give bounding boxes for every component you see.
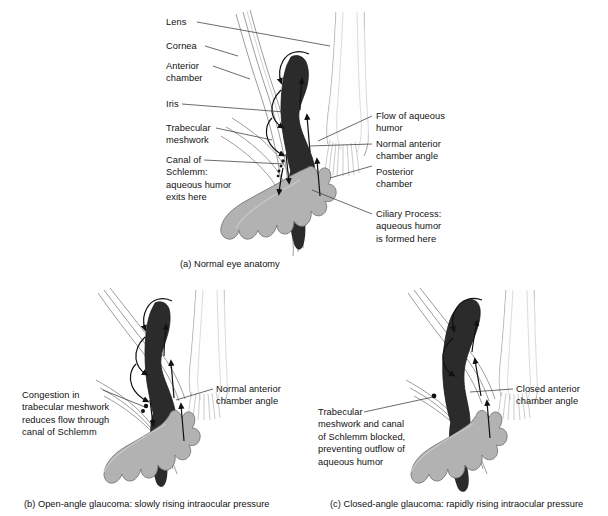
label-normal-anterior-chamber-angle-a: Normal anterior chamber angle	[376, 138, 441, 163]
label-flow-of-aqueous-humor: Flow of aqueous humor	[376, 110, 445, 135]
label-trabecular-meshwork-blocked: Trabecular meshwork and canal of Schlemm…	[318, 406, 405, 468]
label-posterior-chamber: Posterior chamber	[376, 166, 414, 191]
caption-panel-b: (b) Open-angle glaucoma: slowly rising i…	[24, 498, 269, 510]
cornea-layers-b	[98, 288, 185, 404]
figure-root: Lens Cornea Anterior chamber Iris Trabec…	[0, 0, 608, 516]
label-lens: Lens	[166, 16, 186, 28]
label-trabecular-meshwork: Trabecular meshwork	[166, 122, 211, 147]
label-cornea: Cornea	[166, 40, 197, 52]
lens-body-fill-a	[327, 12, 369, 158]
label-closed-anterior-chamber-angle: Closed anterior chamber angle	[516, 383, 580, 408]
label-congestion-trabecular-meshwork: Congestion in trabecular meshwork reduce…	[22, 389, 109, 439]
label-ciliary-process: Ciliary Process: aqueous humor is formed…	[376, 208, 441, 245]
iris-c	[443, 299, 480, 434]
blocked-meshwork-c	[432, 394, 437, 399]
caption-panel-a: (a) Normal eye anatomy	[180, 258, 280, 270]
label-normal-anterior-chamber-angle-b: Normal anterior chamber angle	[216, 383, 281, 408]
label-canal-of-schlemm: Canal of Schlemm: aqueous humor exits he…	[166, 154, 231, 204]
caption-panel-c: (c) Closed-angle glaucoma: rapidly risin…	[330, 498, 583, 510]
label-iris: Iris	[166, 98, 179, 110]
panel-b-illustration	[96, 288, 228, 487]
label-anterior-chamber: Anterior chamber	[166, 60, 203, 85]
congested-meshwork-b	[141, 404, 148, 413]
